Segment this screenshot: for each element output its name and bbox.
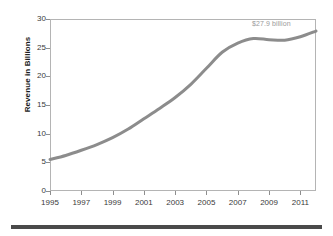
x-tick-mark xyxy=(269,191,270,195)
revenue-line-path xyxy=(50,31,316,159)
y-tick-label: 0 xyxy=(22,187,46,195)
x-tick-mark xyxy=(238,191,239,195)
y-tick-label: 20 xyxy=(22,72,46,80)
x-tick-mark xyxy=(144,191,145,195)
y-tick-label: 5 xyxy=(22,158,46,166)
footer-rule xyxy=(11,225,322,229)
y-tick-label: 10 xyxy=(22,130,46,138)
x-tick-mark xyxy=(81,191,82,195)
endpoint-annotation: $27.9 billion xyxy=(252,20,291,27)
y-tick-label: 25 xyxy=(22,44,46,52)
x-tick-mark xyxy=(175,191,176,195)
x-tick-mark xyxy=(206,191,207,195)
x-tick-mark xyxy=(113,191,114,195)
chart-figure: Revenue in Billions 051015202530 1995199… xyxy=(0,0,333,236)
x-tick-mark xyxy=(300,191,301,195)
revenue-line-series xyxy=(50,19,316,191)
y-tick-label: 30 xyxy=(22,15,46,23)
x-tick-label: 2011 xyxy=(280,199,320,207)
y-tick-label: 15 xyxy=(22,101,46,109)
x-tick-mark xyxy=(50,191,51,195)
